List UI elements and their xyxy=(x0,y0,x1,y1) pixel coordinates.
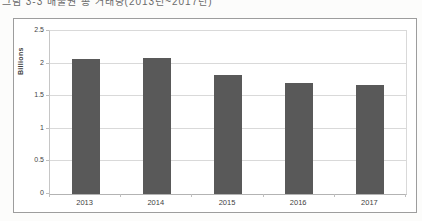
bar-2013 xyxy=(72,59,100,194)
x-tick-label: 2015 xyxy=(207,198,247,207)
gridline xyxy=(50,63,406,64)
y-tick-mark xyxy=(46,128,49,129)
y-tick-mark xyxy=(46,30,49,31)
x-tick-label: 2014 xyxy=(136,198,176,207)
gridline xyxy=(50,30,406,31)
y-tick-mark xyxy=(46,160,49,161)
x-tick-mark xyxy=(120,194,121,197)
plot-area xyxy=(49,30,407,195)
bar-2014 xyxy=(143,58,171,194)
y-tick-label: 2.5 xyxy=(14,26,44,34)
x-tick-mark xyxy=(334,194,335,197)
bar-2017 xyxy=(356,85,384,194)
y-tick-label: 1.5 xyxy=(14,91,44,99)
bar-2016 xyxy=(285,83,313,194)
y-tick-label: 2 xyxy=(14,59,44,67)
y-tick-mark xyxy=(46,63,49,64)
x-tick-label: 2013 xyxy=(65,198,105,207)
bar-2015 xyxy=(214,75,242,194)
x-tick-label: 2016 xyxy=(278,198,318,207)
y-tick-label: 1 xyxy=(14,124,44,132)
y-tick-label: 0 xyxy=(14,189,44,197)
bar-chart: Billions 00.511.522.5 201320142015201620… xyxy=(13,18,417,213)
y-tick-label: 0.5 xyxy=(14,156,44,164)
figure-caption: 그림 3-3 배출권 총 거래량(2013년~2017년) xyxy=(0,0,422,8)
x-tick-mark xyxy=(263,194,264,197)
x-tick-mark xyxy=(49,194,50,197)
y-tick-mark xyxy=(46,95,49,96)
x-tick-label: 2017 xyxy=(349,198,389,207)
figure-caption-text: 그림 3-3 배출권 총 거래량(2013년~2017년) xyxy=(2,0,213,8)
x-tick-mark xyxy=(405,194,406,197)
x-tick-mark xyxy=(191,194,192,197)
